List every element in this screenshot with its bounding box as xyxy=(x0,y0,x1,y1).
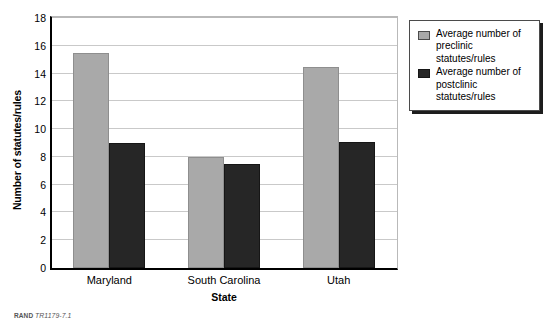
chart-legend: Average number of preclinic statutes/rul… xyxy=(409,20,540,111)
legend-label: Average number of postclinic statutes/ru… xyxy=(436,66,532,103)
y-axis-tick-label: 8 xyxy=(40,151,46,163)
legend-label: Average number of preclinic statutes/rul… xyxy=(436,28,532,65)
plot-frame xyxy=(50,16,398,270)
y-axis-tick-label: 16 xyxy=(34,40,46,52)
y-axis-tick-label: 6 xyxy=(40,179,46,191)
y-axis-tick-label: 2 xyxy=(40,234,46,246)
credit-id: TR1179-7.1 xyxy=(35,312,71,319)
credit-brand: RAND xyxy=(14,312,33,319)
x-axis-tick-label: South Carolina xyxy=(188,274,261,286)
bar-postclinic[interactable] xyxy=(224,164,260,268)
legend-swatch-preclinic-icon xyxy=(418,31,430,40)
x-axis-title: State xyxy=(50,291,398,303)
x-axis-title-text: State xyxy=(211,291,237,303)
bar-postclinic[interactable] xyxy=(339,142,375,268)
legend-swatch-postclinic-icon xyxy=(418,69,430,78)
bar-postclinic[interactable] xyxy=(109,143,145,268)
y-axis-tick-labels: 024681012141618 xyxy=(26,16,46,270)
bar-chart-figure: Number of statutes/rules 024681012141618… xyxy=(0,0,549,330)
y-axis-title-text: Number of statutes/rules xyxy=(11,90,23,210)
figure-credit: RAND TR1179-7.1 xyxy=(14,312,71,319)
y-axis-tick-label: 10 xyxy=(34,123,46,135)
bar-preclinic[interactable] xyxy=(188,157,224,268)
bar-preclinic[interactable] xyxy=(73,53,109,268)
y-axis-tick-label: 14 xyxy=(34,68,46,80)
x-axis-tick-label: Utah xyxy=(327,274,350,286)
bars-layer xyxy=(52,17,397,268)
y-axis-tick-label: 0 xyxy=(40,262,46,274)
x-axis-tick-labels: MarylandSouth CarolinaUtah xyxy=(50,274,398,290)
y-axis-tick-label: 12 xyxy=(34,95,46,107)
y-axis-title: Number of statutes/rules xyxy=(8,20,26,280)
y-axis-tick-label: 4 xyxy=(40,206,46,218)
legend-entry[interactable]: Average number of preclinic statutes/rul… xyxy=(418,28,532,65)
y-axis-tick-label: 18 xyxy=(34,12,46,24)
legend-entry[interactable]: Average number of postclinic statutes/ru… xyxy=(418,66,532,103)
x-axis-tick-label: Maryland xyxy=(87,274,132,286)
bar-preclinic[interactable] xyxy=(303,67,339,268)
